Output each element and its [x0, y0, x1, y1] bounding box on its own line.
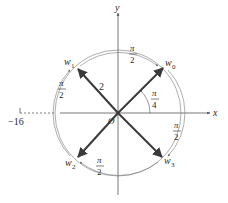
- svg-text:2: 2: [174, 132, 179, 142]
- label-w0: w 0: [165, 57, 176, 71]
- angle-pi-over-4: π 4: [151, 88, 159, 110]
- arc-angle-top: π 2: [129, 43, 137, 65]
- x-axis-label: x: [212, 107, 218, 118]
- label-w2: w 2: [65, 157, 76, 171]
- svg-text:1: 1: [71, 62, 75, 70]
- svg-text:3: 3: [171, 161, 175, 169]
- arc-angle-left: π 2: [58, 78, 66, 100]
- roots-diagram: x y O −16 2 w 0 w 1 w 2 w 3 π 4 π 2 π 2 …: [0, 0, 228, 203]
- svg-text:π: π: [130, 43, 135, 53]
- origin-label: O: [108, 116, 115, 126]
- svg-text:π: π: [152, 88, 157, 98]
- svg-text:π: π: [59, 78, 64, 88]
- svg-text:w: w: [64, 56, 71, 67]
- svg-text:4: 4: [152, 100, 157, 110]
- real-point-label: −16: [8, 116, 24, 127]
- svg-text:w: w: [65, 157, 72, 168]
- y-axis-label: y: [114, 2, 120, 13]
- svg-text:π: π: [174, 120, 179, 130]
- svg-text:2: 2: [130, 55, 135, 65]
- radius-label: 2: [99, 81, 104, 92]
- angle-arc-pi-4: [140, 90, 150, 113]
- arc-w1-w0: [80, 52, 158, 66]
- svg-text:2: 2: [97, 167, 102, 177]
- label-w1: w 1: [64, 56, 75, 70]
- arc-w3-w2: [80, 162, 158, 176]
- vector-w3: [118, 113, 162, 157]
- svg-text:2: 2: [59, 90, 64, 100]
- label-w3: w 3: [164, 155, 175, 169]
- svg-text:w: w: [164, 155, 171, 166]
- svg-text:0: 0: [172, 63, 176, 71]
- vector-w1: [78, 69, 118, 113]
- svg-text:π: π: [97, 155, 102, 165]
- svg-text:w: w: [165, 57, 172, 68]
- svg-text:2: 2: [72, 163, 76, 171]
